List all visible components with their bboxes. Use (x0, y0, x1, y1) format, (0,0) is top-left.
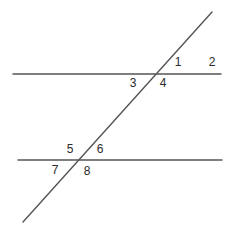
angle-label-3: 3 (130, 77, 137, 89)
parallel-lines-diagram: 1 2 3 4 5 6 7 8 (0, 0, 232, 233)
transversal-line (23, 12, 212, 222)
lines-canvas (0, 0, 232, 233)
angle-label-5: 5 (67, 143, 74, 155)
angle-label-4: 4 (160, 77, 167, 89)
angle-label-1: 1 (175, 56, 182, 68)
angle-label-6: 6 (97, 143, 104, 155)
angle-label-7: 7 (52, 164, 59, 176)
angle-label-8: 8 (84, 165, 91, 177)
angle-label-2: 2 (209, 56, 216, 68)
